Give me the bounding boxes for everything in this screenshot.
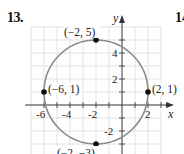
point-label-top: (−2, 5)	[64, 26, 96, 39]
point-label-bottom: (−2, −3)	[57, 147, 95, 154]
point-bottom	[93, 141, 99, 147]
x-axis	[25, 102, 174, 108]
point-right	[145, 89, 151, 95]
x-tick-label: 2	[145, 108, 151, 120]
x-tick-label: -2	[88, 108, 97, 120]
y-tick-label: 4	[112, 47, 118, 59]
point-top	[93, 37, 99, 43]
x-tick-label: -6	[36, 108, 46, 120]
y-axis	[119, 15, 125, 154]
x-axis-label: x	[167, 107, 174, 121]
circle-graph: y x -6 -4 -2 2 4 2 -2 (−2, 5) (−6, 1) (2…	[0, 0, 184, 154]
y-axis-label: y	[112, 11, 119, 25]
y-tick-label: -2	[104, 125, 113, 137]
x-tick-label: -4	[62, 108, 72, 120]
point-left	[41, 89, 47, 95]
y-tick-label: 2	[112, 73, 118, 85]
point-label-right: (2, 1)	[152, 83, 177, 96]
point-label-left: (−6, 1)	[48, 83, 80, 96]
